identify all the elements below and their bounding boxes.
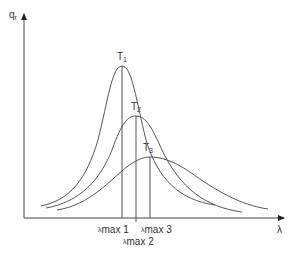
label-lambda-max-2: λmax 2: [123, 236, 154, 247]
curve-t1: [41, 66, 215, 206]
label-lambda-max-3: λmax 3: [141, 224, 172, 235]
label-t2: T2: [131, 101, 141, 113]
label-t1: T1: [117, 51, 127, 63]
y-axis-label: qr: [9, 9, 18, 21]
label-lambda-max-1: λmax 1: [98, 224, 129, 235]
x-axis-label: λ: [277, 224, 282, 235]
label-t3: T3: [143, 142, 153, 154]
radiation-diagram: qr λ T1 T2 T3 λmax 1 λmax 3 λmax 2: [0, 0, 296, 260]
